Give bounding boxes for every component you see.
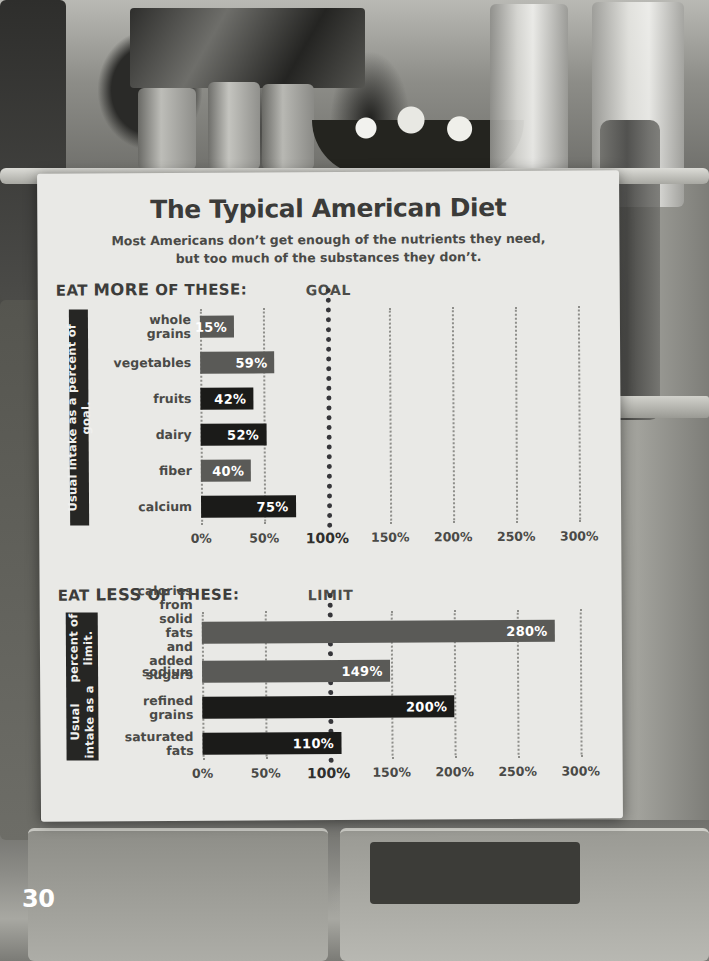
x-tick-0: 0%: [192, 766, 213, 781]
subtitle-line-2: but too much of the substances they don’…: [37, 247, 619, 269]
photo-bin-dark-item: [370, 842, 580, 904]
bar-sodium: 149%: [202, 660, 390, 683]
chart-eat-more: EAT MORE OF THESE: GOAL Usual intake as …: [38, 270, 622, 549]
x-tick-100: 100%: [307, 765, 350, 781]
table-row: saturated fats 110%: [202, 723, 580, 761]
eat-less-caption-line-1: Usual intake as a: [68, 684, 97, 760]
x-tick-100: 100%: [306, 530, 349, 546]
bar-fruits: 42%: [200, 387, 253, 409]
eat-more-x-axis: 0% 50% 100% 150% 200% 250% 300%: [39, 528, 621, 550]
infographic-card: The Typical American Diet Most Americans…: [37, 170, 623, 822]
bar-calcium: 75%: [201, 495, 296, 518]
table-row: fiber 40%: [201, 450, 579, 488]
x-tick-250: 250%: [497, 529, 536, 544]
eat-more-plot-area: whole grains 15% vegetables 59% fruits 4…: [200, 306, 579, 524]
chart-eat-less: EAT LESS OF THESE: LIMIT Usual intake as…: [40, 575, 623, 809]
bar-value: 52%: [227, 427, 259, 442]
bar-value: 42%: [214, 391, 246, 406]
bar-label: refined grains: [143, 694, 202, 723]
bar-refined-grains: 200%: [202, 695, 454, 719]
photo-soda-can-1: [138, 88, 196, 170]
photo-bin-left: [28, 828, 328, 961]
bar-saturated-fats: 110%: [202, 732, 341, 755]
x-tick-200: 200%: [434, 529, 473, 544]
bar-label: vegetables: [114, 356, 201, 371]
bar-value: 75%: [256, 499, 288, 514]
bar-value: 15%: [195, 319, 227, 334]
x-tick-50: 50%: [251, 765, 281, 780]
bar-value: 40%: [212, 463, 244, 478]
x-tick-0: 0%: [191, 531, 212, 546]
x-tick-300: 300%: [561, 763, 600, 778]
page-number: 30: [22, 885, 54, 913]
bar-fiber: 40%: [201, 459, 252, 481]
bar-dairy: 52%: [201, 423, 267, 445]
photo-shadow-left-lower: [0, 300, 40, 840]
bar-value: 280%: [506, 623, 547, 638]
eat-less-axis-caption: Usual intake as a percent of limit.: [66, 612, 99, 760]
bar-vegetables: 59%: [200, 351, 274, 373]
photo-snack-pieces: [330, 104, 510, 144]
bar-label: calcium: [138, 500, 201, 515]
photo-soda-can-2: [208, 82, 260, 170]
x-tick-150: 150%: [372, 765, 411, 780]
eat-less-bar-rows: calories from solid fats and added sugar…: [202, 609, 581, 761]
bar-whole-grains: 15%: [200, 316, 234, 338]
x-tick-300: 300%: [560, 528, 599, 543]
table-row: calories from solid fats and added sugar…: [202, 609, 580, 653]
bar-label: fruits: [153, 392, 200, 406]
bar-label: whole grains: [147, 313, 200, 342]
table-row: whole grains 15%: [200, 306, 578, 344]
x-tick-200: 200%: [435, 764, 474, 779]
bar-label: sodium: [142, 665, 202, 679]
bar-value: 110%: [293, 735, 334, 750]
eat-more-bar-rows: whole grains 15% vegetables 59% fruits 4…: [200, 306, 579, 524]
eat-less-caption-line-2: percent of limit.: [66, 612, 95, 684]
bar-value: 200%: [406, 699, 447, 714]
bar-label: dairy: [156, 428, 201, 442]
page-title: The Typical American Diet: [37, 170, 619, 225]
x-tick-150: 150%: [371, 530, 410, 545]
bar-value: 59%: [235, 355, 267, 370]
x-tick-250: 250%: [498, 764, 537, 779]
bar-label: saturated fats: [125, 730, 203, 759]
bar-calories-solid-fats-added-sugars: 280%: [202, 620, 555, 644]
photo-soda-can-3: [262, 84, 314, 170]
photo-snack-bag: [130, 8, 365, 88]
x-tick-50: 50%: [249, 530, 279, 545]
table-row: dairy 52%: [201, 414, 579, 452]
eat-less-plot-area: calories from solid fats and added sugar…: [202, 609, 581, 759]
photo-shelf-edge-right: [612, 396, 709, 418]
eat-more-axis-caption: Usual intake as a percent of goal.: [69, 309, 89, 525]
bar-value: 149%: [341, 663, 382, 678]
subtitle-line-1: Most Americans don’t get enough of the n…: [37, 229, 619, 251]
table-row: calcium 75%: [201, 486, 579, 524]
table-row: sodium 149%: [202, 651, 580, 689]
table-row: fruits 42%: [200, 378, 578, 416]
eat-less-x-axis: 0% 50% 100% 150% 200% 250% 300%: [41, 763, 623, 785]
table-row: vegetables 59%: [200, 342, 578, 380]
bar-label: fiber: [159, 464, 201, 478]
table-row: refined grains 200%: [202, 687, 580, 725]
page-subtitle: Most Americans don’t get enough of the n…: [37, 221, 619, 269]
